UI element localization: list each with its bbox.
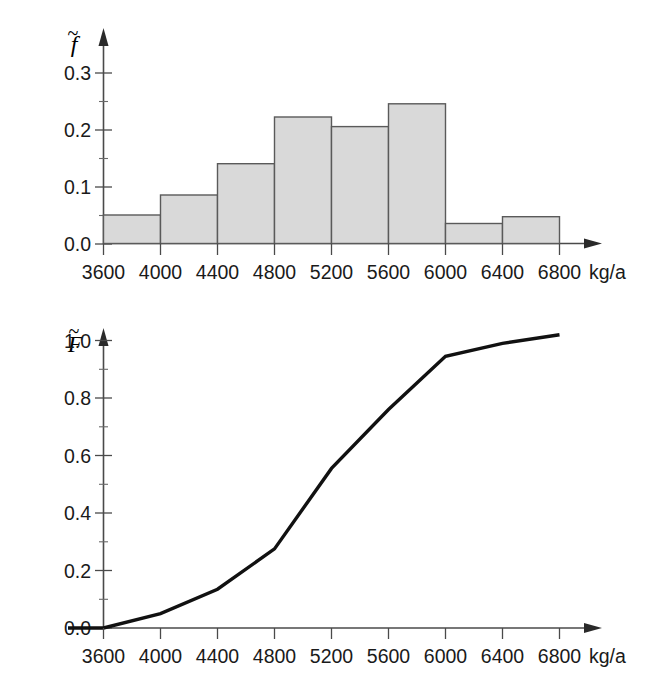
- cumulative-xtick-label-4400: 4400: [196, 645, 240, 667]
- cumulative-xtick-label-3600: 3600: [82, 645, 126, 667]
- histogram-y-axis-title: f: [71, 31, 81, 57]
- cumulative-xtick-label-4800: 4800: [253, 645, 297, 667]
- histogram-y-axis-arrow: [99, 28, 109, 46]
- histogram-ytick-label-3: 0.3: [64, 62, 91, 84]
- cumulative-x-ticks: [104, 628, 560, 639]
- cumulative-xtick-label-6000: 6000: [424, 645, 468, 667]
- cumulative-ytick-label-1: 0.2: [64, 560, 91, 582]
- cumulative-ytick-label-4: 0.8: [64, 387, 91, 409]
- histogram-xtick-label-4800: 4800: [253, 261, 297, 283]
- cumulative-xtick-label-6800: 6800: [538, 645, 582, 667]
- histogram-xtick-label-5200: 5200: [310, 261, 354, 283]
- histogram-ytick-label-1: 0.1: [64, 176, 91, 198]
- cumulative-distribution-curve: [68, 335, 560, 628]
- cumulative-xtick-label-6400: 6400: [481, 645, 525, 667]
- histogram-bar: [218, 164, 275, 244]
- histogram-xtick-label-4000: 4000: [139, 261, 183, 283]
- cumulative-ytick-label-3: 0.6: [64, 445, 91, 467]
- histogram-bar: [446, 224, 503, 244]
- histogram-bar: [389, 104, 446, 244]
- histogram-xtick-label-6000: 6000: [424, 261, 468, 283]
- histogram-ytick-label-2: 0.2: [64, 119, 91, 141]
- histogram-bar: [104, 215, 161, 244]
- histogram-xtick-label-4400: 4400: [196, 261, 240, 283]
- histogram-bar: [503, 217, 560, 244]
- histogram-bars: [104, 104, 560, 244]
- cumulative-x-axis-arrow: [584, 623, 602, 633]
- cumulative-x-unit-label: kg/a: [589, 645, 626, 667]
- cumulative-distribution-chart: ~ F 0.0 0.2 0.4 0.6 0.8 1.0: [0, 300, 657, 698]
- histogram-xtick-label-5600: 5600: [367, 261, 411, 283]
- histogram-x-axis-arrow: [584, 239, 602, 249]
- histogram-xtick-label-3600: 3600: [82, 261, 126, 283]
- histogram-ytick-label-0: 0.0: [64, 233, 91, 255]
- relative-frequency-histogram: ~ f 0.0 0.1 0.2 0.3: [0, 0, 657, 300]
- cumulative-xtick-label-4000: 4000: [139, 645, 183, 667]
- statistics-figure: ~ f 0.0 0.1 0.2 0.3: [0, 0, 657, 698]
- histogram-bar: [275, 117, 332, 244]
- histogram-x-unit-label: kg/a: [589, 261, 626, 283]
- cumulative-xtick-label-5200: 5200: [310, 645, 354, 667]
- cumulative-xtick-label-5600: 5600: [367, 645, 411, 667]
- cumulative-ytick-label-5: 1.0: [64, 330, 91, 352]
- histogram-xtick-label-6800: 6800: [538, 261, 582, 283]
- histogram-bar: [161, 195, 218, 244]
- histogram-x-ticks: [104, 244, 560, 256]
- histogram-xtick-label-6400: 6400: [481, 261, 525, 283]
- histogram-bar: [332, 127, 389, 244]
- cumulative-ytick-label-2: 0.4: [64, 502, 91, 524]
- cumulative-y-axis-arrow: [99, 328, 109, 346]
